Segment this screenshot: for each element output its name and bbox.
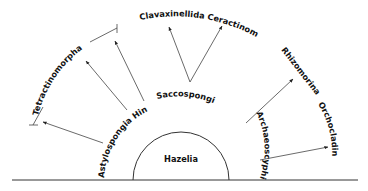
arrow-astylospongia-2 <box>86 61 127 110</box>
rhizomorina-label: Rhizomorina <box>279 45 322 97</box>
ceractinomorpha-label: Ceractinomorpha <box>0 0 260 39</box>
top-textpath: Clavaxinellida Ceractinomorpha <box>0 0 260 39</box>
clavaxinellida-ceractinomorpha-label: Clavaxinellida Ceractinomorpha <box>0 0 260 39</box>
astylospongia-hindia-label: Astylospongia Hindia ? <box>0 0 149 178</box>
arrow-archaeoscyphia-rhizomorina <box>246 79 293 123</box>
tetractinomorpha-label: Tetractinomorpha <box>30 43 83 117</box>
clavaxinellida-label: Clavaxinellida <box>138 8 205 22</box>
arrow-saccospongia-ceractinomorpha <box>190 26 222 82</box>
arrow-astylospongia-1 <box>43 122 103 143</box>
astylospongia-hindia-textpath: Astylospongia Hindia ? <box>0 0 149 178</box>
hazelia-label: Hazelia <box>164 154 198 164</box>
phylogeny-diagram: Hazelia Astylospongia Hindia ? Tetractin… <box>0 0 368 191</box>
arrow-astylospongia-3 <box>115 41 144 101</box>
tetractinomorpha-textpath: Tetractinomorpha <box>30 43 83 117</box>
arrow-saccospongia-clavaxinellida <box>169 27 190 82</box>
tetractinomorpha-bracket <box>29 24 117 125</box>
